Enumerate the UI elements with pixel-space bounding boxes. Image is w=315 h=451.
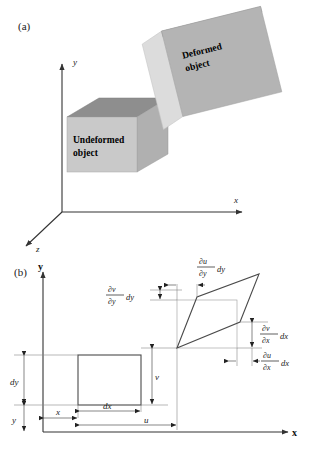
panel-a-z-axis bbox=[26, 212, 62, 246]
dim-label-x: x bbox=[55, 407, 60, 417]
derivative-du-dx: ∂u ∂x dx bbox=[261, 351, 289, 372]
undeformed-object: Undeformed object bbox=[67, 98, 168, 172]
du-dx-denominator: ∂x bbox=[263, 363, 271, 372]
du-dx-numerator: ∂u bbox=[263, 351, 271, 360]
dv-dy-numerator: ∂v bbox=[108, 285, 116, 294]
dim-label-u: u bbox=[144, 415, 149, 425]
panel-a-x-axis-label: x bbox=[233, 195, 238, 205]
derivative-dv-dx: ∂v ∂x dx bbox=[260, 324, 288, 345]
dim-label-dx: dx bbox=[103, 401, 112, 411]
deformed-object: Deformed object bbox=[140, 6, 284, 129]
panel-a-label: (a) bbox=[18, 20, 31, 33]
deformed-element-parallelogram bbox=[177, 274, 259, 348]
derivative-dv-dy: ∂v ∂y dy bbox=[106, 285, 134, 306]
panel-b-label: (b) bbox=[14, 266, 27, 279]
deformed-front-face bbox=[162, 6, 282, 116]
dv-dy-denominator: ∂y bbox=[108, 297, 116, 306]
undeformed-label-line1: Undeformed bbox=[73, 135, 125, 145]
dim-label-dy: dy bbox=[10, 377, 19, 387]
du-dy-suffix: dy bbox=[217, 264, 225, 274]
undeformed-element-rect bbox=[78, 355, 141, 405]
dim-label-y: y bbox=[11, 415, 16, 425]
dv-dx-denominator: ∂x bbox=[262, 336, 270, 345]
panel-b-x-axis-label: x bbox=[292, 427, 297, 438]
panel-a-y-axis-label: y bbox=[72, 57, 77, 67]
du-dx-suffix: dx bbox=[281, 358, 289, 368]
panel-b-y-axis-label: y bbox=[38, 261, 43, 272]
dim-label-v: v bbox=[155, 372, 159, 382]
dv-dy-suffix: dy bbox=[126, 292, 134, 302]
undeformed-label-line2: object bbox=[73, 148, 99, 158]
derivative-du-dy: ∂u ∂y dy bbox=[197, 257, 225, 278]
dv-dx-suffix: dx bbox=[280, 331, 288, 341]
dv-dx-numerator: ∂v bbox=[262, 324, 270, 333]
panel-a-z-axis-label: z bbox=[35, 244, 40, 254]
du-dy-denominator: ∂y bbox=[199, 269, 207, 278]
du-dy-numerator: ∂u bbox=[199, 257, 207, 266]
deformation-strain-figure: (a) y x z Undeformed object bbox=[0, 0, 315, 451]
panel-a: (a) y x z Undeformed object bbox=[18, 6, 284, 254]
panel-b: (b) y x dy y x dx u bbox=[10, 257, 297, 438]
